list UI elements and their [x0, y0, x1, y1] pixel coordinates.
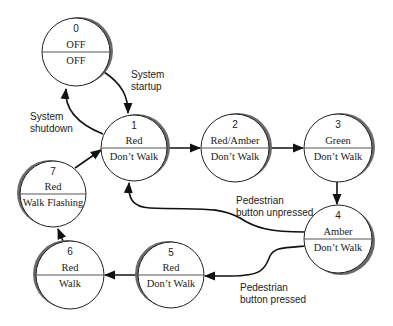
state-number: 6	[67, 246, 73, 257]
state-diagram: 0OFFOFF1RedDon’t Walk2Red/AmberDon’t Wal…	[0, 0, 393, 326]
state-5: 5RedDon’t Walk	[135, 241, 204, 308]
transitions	[58, 72, 337, 276]
state-signal-label: Red	[62, 262, 80, 273]
state-signal-label: Green	[325, 135, 351, 146]
state-pedestrian-label: Walk	[59, 278, 82, 289]
state-pedestrian-label: Don’t Walk	[211, 151, 260, 162]
state-pedestrian-label: Walk Flashing	[23, 197, 84, 208]
edge-4-to-5	[205, 246, 305, 276]
state-number: 5	[168, 247, 174, 258]
state-7: 7RedWalk Flashing	[17, 160, 86, 227]
state-pedestrian-label: OFF	[66, 55, 85, 66]
state-3: 3GreenDon’t Walk	[304, 113, 375, 182]
state-signal-label: Amber	[323, 226, 353, 237]
label-system-shutdown: System shutdown	[30, 111, 73, 134]
state-number: 1	[131, 120, 137, 131]
state-signal-label: Red/Amber	[211, 135, 260, 146]
edge-6-to-7	[58, 229, 63, 241]
state-number: 7	[50, 166, 56, 177]
label-pedestrian-unpressed: Pedestrian button unpressed	[236, 195, 313, 218]
edge-7-to-1	[75, 150, 101, 168]
state-signal-label: Red	[126, 135, 144, 146]
state-pedestrian-label: Don’t Walk	[110, 151, 159, 162]
state-number: 0	[73, 23, 79, 34]
state-0: 0OFFOFF	[42, 17, 113, 86]
state-1: 1RedDon’t Walk	[101, 114, 170, 181]
state-signal-label: OFF	[66, 39, 85, 50]
state-number: 3	[335, 119, 341, 130]
state-6: 6RedWalk	[33, 240, 104, 309]
state-pedestrian-label: Don’t Walk	[314, 242, 363, 253]
state-pedestrian-label: Don’t Walk	[147, 278, 196, 289]
state-2: 2Red/AmberDon’t Walk	[201, 113, 272, 182]
state-signal-label: Red	[163, 262, 181, 273]
states: 0OFFOFF1RedDon’t Walk2Red/AmberDon’t Wal…	[17, 17, 375, 309]
state-signal-label: Red	[45, 181, 63, 192]
label-system-startup: System startup	[131, 69, 167, 92]
state-pedestrian-label: Don’t Walk	[314, 151, 363, 162]
state-4: 4AmberDon’t Walk	[304, 205, 375, 275]
state-number: 2	[232, 119, 238, 130]
state-number: 4	[335, 210, 341, 221]
edge-0-to-1	[104, 72, 128, 113]
label-pedestrian-pressed: Pedestrian button pressed	[240, 282, 306, 305]
